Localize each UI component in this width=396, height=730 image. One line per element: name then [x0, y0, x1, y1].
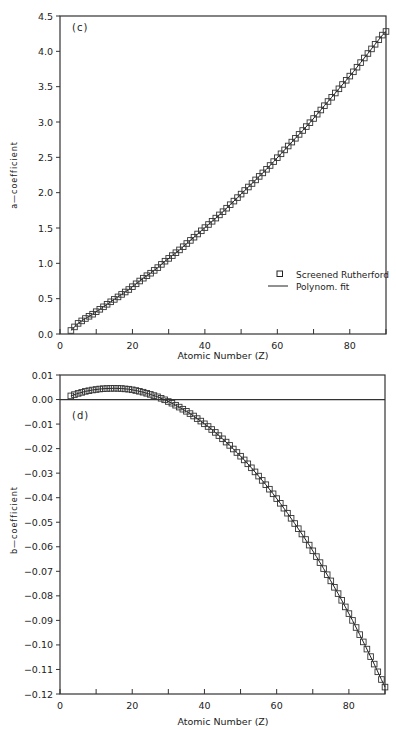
y-tick-label: −0.10	[24, 639, 53, 650]
legend-label-polynom-fit: Polynom. fit	[296, 282, 350, 292]
x-tick-label: 20	[126, 700, 138, 711]
y-axis-ticks: 0.00.51.01.52.02.53.03.54.04.5	[38, 11, 60, 340]
y-tick-label: 2.0	[38, 187, 53, 198]
y-axis-label: a—coefficient	[10, 141, 19, 209]
y-tick-label: 0.5	[38, 293, 53, 304]
x-axis-label: Atomic Number (Z)	[177, 716, 268, 727]
legend: Screened Rutherford Polynom. fit	[268, 270, 389, 292]
legend-square-marker-icon	[277, 271, 283, 277]
x-tick-label: 60	[271, 340, 283, 351]
y-tick-label: −0.06	[24, 541, 53, 552]
panel-c-a-coefficient-plot: 0.00.51.01.52.02.53.03.54.04.5 020406080…	[10, 11, 389, 362]
panel-label: (c)	[72, 22, 88, 33]
y-tick-label: 0.0	[38, 329, 53, 340]
y-axis-label: b—coefficient	[10, 486, 19, 554]
y-axis-ticks: 0.010.00−0.01−0.02−0.03−0.04−0.05−0.06−0…	[24, 370, 60, 700]
plot-frame	[60, 375, 385, 694]
x-tick-label: 80	[344, 340, 356, 351]
x-tick-label: 60	[271, 700, 283, 711]
y-tick-label: −0.02	[24, 443, 53, 454]
y-tick-label: 4.5	[38, 11, 53, 22]
x-axis-label: Atomic Number (Z)	[177, 350, 268, 361]
panel-d-b-coefficient-plot: 0.010.00−0.01−0.02−0.03−0.04−0.05−0.06−0…	[10, 370, 388, 728]
y-tick-label: 2.5	[38, 152, 53, 163]
x-axis-ticks: 020406080	[57, 329, 386, 351]
y-tick-label: 1.0	[38, 258, 53, 269]
y-tick-label: 0.00	[32, 394, 53, 405]
y-tick-label: 3.5	[38, 81, 53, 92]
x-tick-label: 20	[126, 340, 138, 351]
y-tick-label: −0.08	[24, 590, 53, 601]
y-tick-label: 4.0	[38, 46, 53, 57]
y-tick-label: 0.01	[32, 370, 53, 381]
legend-label-screened-rutherford: Screened Rutherford	[296, 270, 389, 280]
x-tick-label: 0	[57, 700, 63, 711]
y-tick-label: −0.03	[24, 468, 53, 479]
x-tick-label: 0	[57, 340, 63, 351]
y-tick-label: −0.01	[24, 419, 53, 430]
y-tick-label: −0.09	[24, 615, 53, 626]
polynomial-fit-line	[71, 388, 385, 687]
y-tick-label: −0.12	[24, 689, 53, 700]
y-tick-label: −0.05	[24, 517, 53, 528]
data-point-square	[68, 393, 74, 399]
x-axis-ticks: 020406080	[57, 689, 385, 711]
y-tick-label: 1.5	[38, 223, 53, 234]
panel-label: (d)	[72, 410, 89, 421]
plot-border	[60, 375, 385, 694]
x-tick-label: 40	[198, 700, 210, 711]
figure: 0.00.51.01.52.02.53.03.54.04.5 020406080…	[0, 0, 396, 730]
y-tick-label: −0.04	[24, 492, 53, 503]
screened-rutherford-markers	[68, 386, 388, 690]
x-tick-label: 80	[343, 700, 355, 711]
y-tick-label: −0.11	[24, 664, 53, 675]
fit-curve	[71, 388, 385, 687]
y-tick-label: 3.0	[38, 117, 53, 128]
y-tick-label: −0.07	[24, 566, 53, 577]
